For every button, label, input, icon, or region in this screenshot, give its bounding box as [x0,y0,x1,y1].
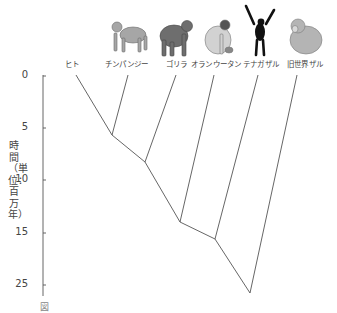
branch-to-gibbon [180,222,215,239]
branch-chimpanzee [112,75,128,135]
branch-human [76,75,112,135]
taxon-label-gorilla: ゴリラ [166,58,188,69]
branch-hc-to-gorilla [112,135,145,162]
figure-caption: 図 [40,300,49,313]
tick-label-0: 0 [6,69,28,80]
taxon-label-old-world-monkey: 旧世界ザル [287,58,323,69]
branch-to-owm [215,239,250,293]
branch-gibbon [215,75,258,239]
axis-title: 時間（単位：百万年） [8,140,20,221]
taxon-label-chimpanzee: チンパンジー [105,58,148,69]
tick-label-25: 25 [6,278,28,289]
branch-gorilla [145,75,176,162]
tick-label-15: 15 [6,226,28,237]
taxon-label-human: ヒト [65,58,79,69]
taxon-label-orangutan: オランウータン [191,58,241,69]
branch-old-world-monkey [250,75,297,293]
tick-label-5: 5 [6,121,28,132]
branch-hcg-to-orangutan [145,162,180,222]
branch-orangutan [180,75,214,222]
taxon-label-gibbon: テナガザル [243,58,279,69]
